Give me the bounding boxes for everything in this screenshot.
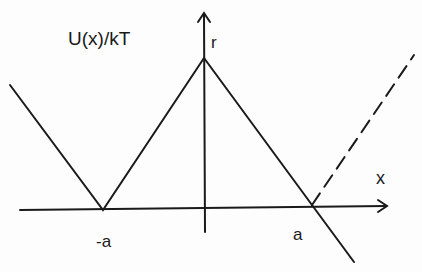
- potential-diagram: U(x)/kT r x -a a: [0, 0, 422, 272]
- potential-curve-right: [204, 58, 354, 262]
- left-tick-label: -a: [96, 232, 111, 252]
- right-tick-label: a: [293, 225, 302, 245]
- potential-dashed-line: [312, 55, 414, 205]
- y-axis-label: U(x)/kT: [68, 28, 130, 50]
- x-axis-label: x: [376, 168, 385, 189]
- x-axis: [20, 206, 386, 210]
- y-axis: [204, 14, 205, 232]
- potential-curve-left: [10, 58, 204, 210]
- peak-label: r: [211, 33, 217, 53]
